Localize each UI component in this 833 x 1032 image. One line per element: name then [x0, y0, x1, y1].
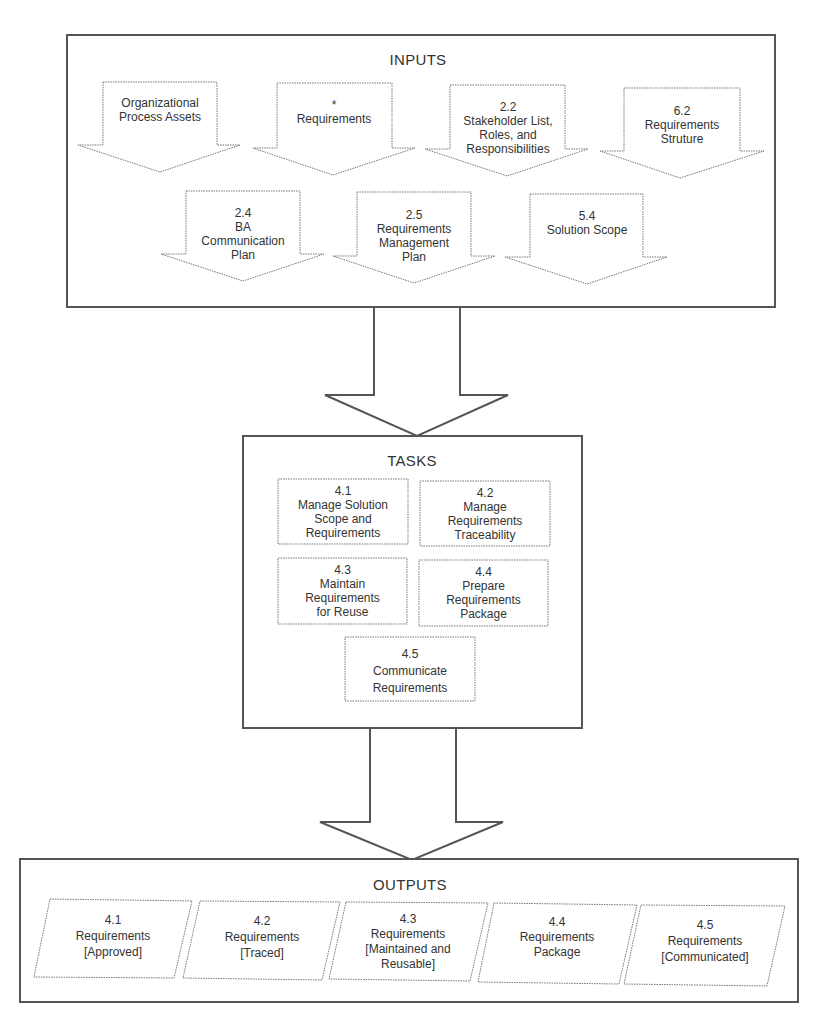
input-label-requirements-structure: 6.2 Requirements Struture	[621, 104, 743, 146]
output-label-4-2: 4.2 Requirements [Traced]	[192, 913, 332, 961]
output-label-4-5: 4.5 Requirements [Communicated]	[634, 917, 776, 965]
flow-arrow-inputs-to-tasks	[325, 307, 508, 436]
input-label-stakeholder-list: 2.2 Stakeholder List, Roles, and Respons…	[444, 100, 572, 156]
task-label-4-2: 4.2 Manage Requirements Traceability	[420, 486, 550, 542]
flow-arrow-tasks-to-outputs	[320, 728, 503, 860]
output-label-4-1: 4.1 Requirements [Approved]	[43, 912, 183, 960]
task-label-4-1: 4.1 Manage Solution Scope and Requiremen…	[278, 484, 408, 540]
input-label-solution-scope: 5.4 Solution Scope	[527, 209, 647, 237]
input-label-ba-communication-plan: 2.4 BA Communication Plan	[183, 206, 303, 262]
task-label-4-4: 4.4 Prepare Requirements Package	[419, 565, 548, 621]
task-label-4-3: 4.3 Maintain Requirements for Reuse	[278, 563, 407, 619]
outputs-title: OUTPUTS	[360, 876, 460, 893]
tasks-title: TASKS	[362, 452, 462, 469]
task-label-4-5: 4.5 Communicate Requirements	[345, 646, 475, 697]
input-label-requirements-management-plan: 2.5 Requirements Management Plan	[354, 208, 474, 264]
input-label-requirements: * Requirements	[274, 98, 394, 126]
inputs-title: INPUTS	[368, 51, 468, 68]
output-label-4-4: 4.4 Requirements Package	[487, 915, 627, 960]
input-label-org-process-assets: Organizational Process Assets	[100, 96, 220, 124]
output-label-4-3: 4.3 Requirements [Maintained and Reusabl…	[338, 912, 478, 972]
